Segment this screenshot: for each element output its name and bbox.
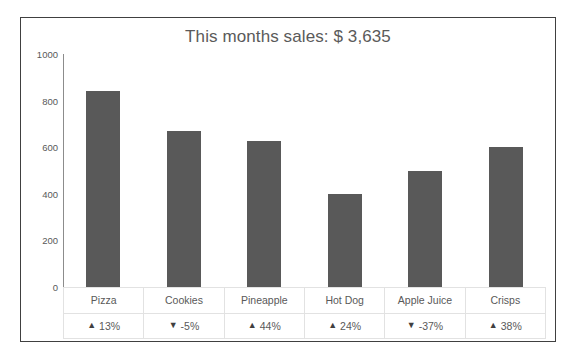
bar[interactable] (247, 141, 281, 287)
chart-title: This months sales: $ 3,635 (21, 27, 555, 47)
table-column: Apple Juice▼-37% (385, 288, 465, 338)
delta-value: -5% (181, 320, 200, 332)
category-label: Cookies (144, 288, 223, 314)
triangle-up-icon: ▲ (87, 321, 96, 330)
bar[interactable] (167, 131, 201, 287)
triangle-up-icon: ▲ (489, 321, 498, 330)
bar[interactable] (489, 147, 523, 287)
y-axis-tick-label: 600 (42, 142, 58, 153)
delta-cell: ▲13% (64, 314, 143, 339)
table-column: Crisps▲38% (466, 288, 545, 338)
bar-slot (305, 54, 386, 287)
delta-value: -37% (419, 320, 444, 332)
delta-cell: ▲44% (225, 314, 304, 339)
delta-value: 13% (99, 320, 120, 332)
delta-cell: ▲38% (466, 314, 545, 339)
bar-slot (63, 54, 144, 287)
bar-slot (466, 54, 547, 287)
delta-value: 24% (340, 320, 361, 332)
bar[interactable] (86, 91, 120, 287)
table-column: Hot Dog▲24% (305, 288, 385, 338)
table-column: Pizza▲13% (64, 288, 144, 338)
table-column: Pineapple▲44% (225, 288, 305, 338)
chart-container: This months sales: $ 3,635 1000800600400… (20, 17, 556, 342)
bar-series (63, 54, 546, 287)
delta-value: 44% (260, 320, 281, 332)
delta-value: 38% (501, 320, 522, 332)
category-label: Pineapple (225, 288, 304, 314)
category-label: Crisps (466, 288, 545, 314)
triangle-down-icon: ▼ (169, 321, 178, 330)
bar-slot (224, 54, 305, 287)
triangle-down-icon: ▼ (407, 321, 416, 330)
triangle-up-icon: ▲ (248, 321, 257, 330)
category-label: Apple Juice (385, 288, 464, 314)
bar-slot (144, 54, 225, 287)
delta-cell: ▼-5% (144, 314, 223, 339)
bar[interactable] (328, 194, 362, 287)
category-label: Pizza (64, 288, 143, 314)
y-axis-tick-label: 1000 (37, 49, 58, 60)
chart-data-table: Pizza▲13%Cookies▼-5%Pineapple▲44%Hot Dog… (63, 287, 546, 339)
category-label: Hot Dog (305, 288, 384, 314)
table-column: Cookies▼-5% (144, 288, 224, 338)
y-axis-tick-label: 400 (42, 188, 58, 199)
plot-area: 10008006004002000 (63, 54, 546, 287)
triangle-up-icon: ▲ (328, 321, 337, 330)
y-axis-tick-label: 0 (53, 282, 58, 293)
delta-cell: ▼-37% (385, 314, 464, 339)
delta-cell: ▲24% (305, 314, 384, 339)
bar[interactable] (408, 171, 442, 288)
y-axis-tick-label: 800 (42, 95, 58, 106)
y-axis-tick-label: 200 (42, 235, 58, 246)
bar-slot (385, 54, 466, 287)
